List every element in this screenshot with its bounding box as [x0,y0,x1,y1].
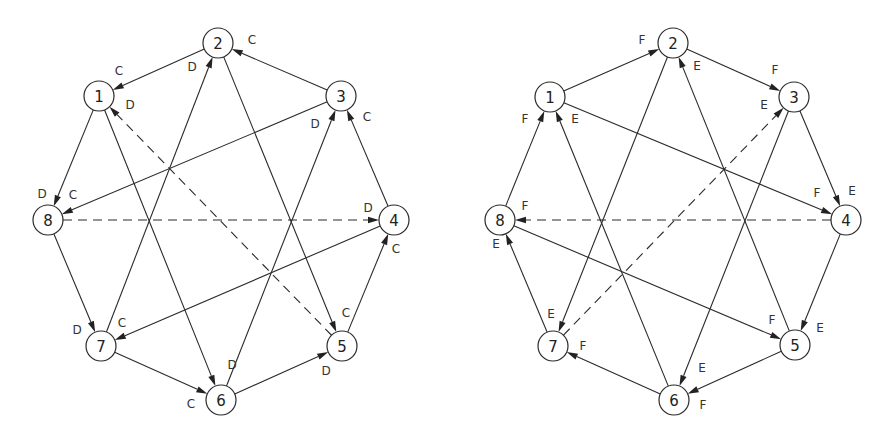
state-node-4: 4 [831,205,861,235]
edge-label: C [342,306,350,320]
arrowhead-icon [62,207,73,214]
node-label: 3 [789,89,799,107]
edge-8-to-1 [506,121,541,206]
edge-label: F [769,313,776,327]
node-label: 6 [669,392,679,410]
node-label: 4 [389,212,399,230]
edge-label: D [187,60,196,74]
arrowhead-icon [680,375,687,386]
edge-label: D [72,323,81,337]
arrowhead-icon [329,321,336,332]
state-node-3: 3 [326,81,356,111]
edge-label: F [580,339,587,353]
node-label: 2 [213,35,223,53]
edge-5-to-4 [348,244,384,332]
edge-1-to-2 [564,53,649,91]
state-node-4: 4 [379,205,409,235]
arrowhead-icon [196,386,207,393]
state-node-1: 1 [84,81,114,111]
edge-6-to-1 [560,121,668,386]
arrowhead-icon [317,352,328,359]
arrowhead-icon [821,207,832,214]
arrowhead-icon [833,195,840,206]
edge-label: F [522,199,529,213]
node-label: 7 [548,338,558,356]
arrowhead-icon [567,352,578,359]
edge-2-to-5 [224,57,332,322]
state-node-3: 3 [779,82,809,112]
arrowhead-icon [113,82,124,89]
edge-label: D [310,117,319,131]
edge-7-to-8 [510,244,547,332]
arrowhead-icon [206,57,213,68]
state-node-2: 2 [658,28,688,58]
edge-label: C [69,188,77,202]
state-node-7: 7 [86,331,116,361]
node-label: 1 [545,89,555,107]
state-node-8: 8 [33,205,63,235]
arrowhead-icon [801,320,808,331]
edge-7-to-3 [563,116,775,336]
edge-label: D [363,201,372,215]
arrowhead-icon [328,110,335,121]
edge-label: D [227,358,236,372]
left-state-graph: 12345678CCDCDCDDDCDCDCCD [33,28,409,415]
edge-label: C [392,242,400,256]
edge-4-to-5 [805,234,841,321]
edge-label: E [693,59,701,73]
arrowhead-icon [368,217,379,223]
right-state-graph: 12345678FFEEFEFEEEFEFEFF [485,28,861,415]
arrowhead-icon [688,386,699,393]
node-label: 5 [790,337,800,355]
edge-label: E [547,307,555,321]
diagram-canvas: 12345678CCDCDCDDDCDCDCCD 12345678FFEEFEF… [0,0,894,430]
edge-label: E [760,98,768,112]
arrowhead-icon [515,217,526,223]
edge-3-to-4 [800,111,836,196]
edge-7-to-2 [106,67,208,332]
edge-3-to-8 [72,102,327,210]
edge-7-to-6 [115,352,198,389]
node-label: 3 [336,88,346,106]
edge-label: F [700,398,707,412]
arrowhead-icon [648,49,659,56]
state-node-2: 2 [203,28,233,58]
edge-label: F [772,63,779,77]
node-label: 7 [96,338,106,356]
edge-label: F [639,33,646,47]
edge-label: C [187,397,195,411]
arrowhead-icon [556,111,563,122]
edge-label: C [363,110,371,124]
edge-label: F [814,186,821,200]
edge-2-to-7 [563,57,668,322]
edge-5-to-6 [698,351,782,389]
edge-4-to-3 [351,120,388,206]
arrowhead-icon [506,234,513,245]
edge-6-to-7 [577,357,661,394]
arrowhead-icon [208,375,215,386]
state-node-1: 1 [535,82,565,112]
state-node-6: 6 [206,385,236,415]
edge-6-to-5 [235,357,319,394]
arrowhead-icon [232,49,243,56]
node-label: 5 [337,338,347,356]
edge-label: E [848,184,856,198]
edge-label: C [115,64,123,78]
node-label: 8 [43,212,53,230]
arrowhead-icon [88,321,95,332]
arrowhead-icon [115,333,126,340]
state-node-7: 7 [538,331,568,361]
node-label: 1 [94,88,104,106]
arrowhead-icon [54,195,61,206]
edge-8-to-7 [54,234,91,322]
arrowhead-icon [347,110,354,121]
state-node-8: 8 [485,205,515,235]
edge-label: E [698,361,706,375]
node-label: 6 [216,392,226,410]
edge-5-to-1 [117,115,331,336]
edge-label: C [118,316,126,330]
edge-label: E [492,237,500,251]
edge-5-to-2 [683,67,790,331]
state-node-6: 6 [659,385,689,415]
arrowhead-icon [537,111,544,122]
